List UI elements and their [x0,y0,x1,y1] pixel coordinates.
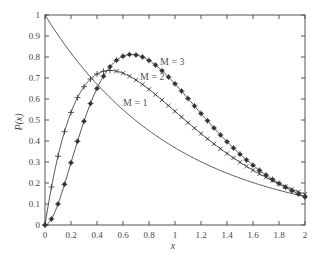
chart: 00.20.40.60.811.21.41.61.8200.10.20.30.4… [0,0,320,266]
x-tick-label: 1.8 [273,230,285,240]
y-tick-label: 1 [36,10,41,20]
marker-m2 [62,129,68,135]
y-tick-label: 0.4 [29,136,41,146]
marker-m2 [145,85,153,93]
series-label-m1: M = 1 [123,97,148,108]
marker-m2 [119,69,127,77]
marker-m2 [236,158,244,166]
plot-axes: 00.20.40.60.811.21.41.61.8200.10.20.30.4… [29,10,308,240]
series-label-m3: M = 3 [160,56,185,67]
marker-m2 [229,154,237,162]
x-tick-label: 1 [173,230,178,240]
x-tick-label: 1.2 [195,230,206,240]
marker-m2 [210,140,218,148]
y-tick-label: 0.7 [29,73,41,83]
x-axis-title: x [170,240,176,251]
marker-m2 [94,71,100,77]
series-line-m1 [45,15,305,197]
y-axis-title: P(x) [13,113,25,132]
marker-m2 [49,184,55,190]
marker-m2 [223,149,231,157]
x-tick-label: 0.2 [65,230,76,240]
marker-m2 [203,135,211,143]
marker-m2 [112,67,120,75]
marker-m2 [68,109,74,115]
y-tick-label: 0.5 [29,115,41,125]
y-tick-label: 0.2 [29,178,40,188]
marker-m2 [55,153,61,159]
y-tick-label: 0.8 [29,52,41,62]
y-tick-label: 0.1 [29,199,40,209]
x-tick-label: 0 [43,230,48,240]
x-tick-label: 2 [303,230,308,240]
x-tick-label: 0.8 [143,230,155,240]
x-tick-label: 1.6 [247,230,259,240]
plot-series [42,15,309,228]
y-tick-label: 0 [36,220,41,230]
x-tick-label: 0.6 [117,230,129,240]
x-tick-label: 1.4 [221,230,233,240]
series-line-m3 [45,54,305,225]
marker-m2 [132,76,140,84]
y-tick-label: 0.9 [29,31,41,41]
series-label-m2: M = 2 [140,71,165,82]
marker-m2 [75,95,81,101]
y-tick-label: 0.6 [29,94,41,104]
marker-m2 [242,162,250,170]
x-tick-label: 0.4 [91,230,103,240]
y-tick-label: 0.3 [29,157,41,167]
marker-m2 [216,145,224,153]
marker-m2 [125,72,133,80]
